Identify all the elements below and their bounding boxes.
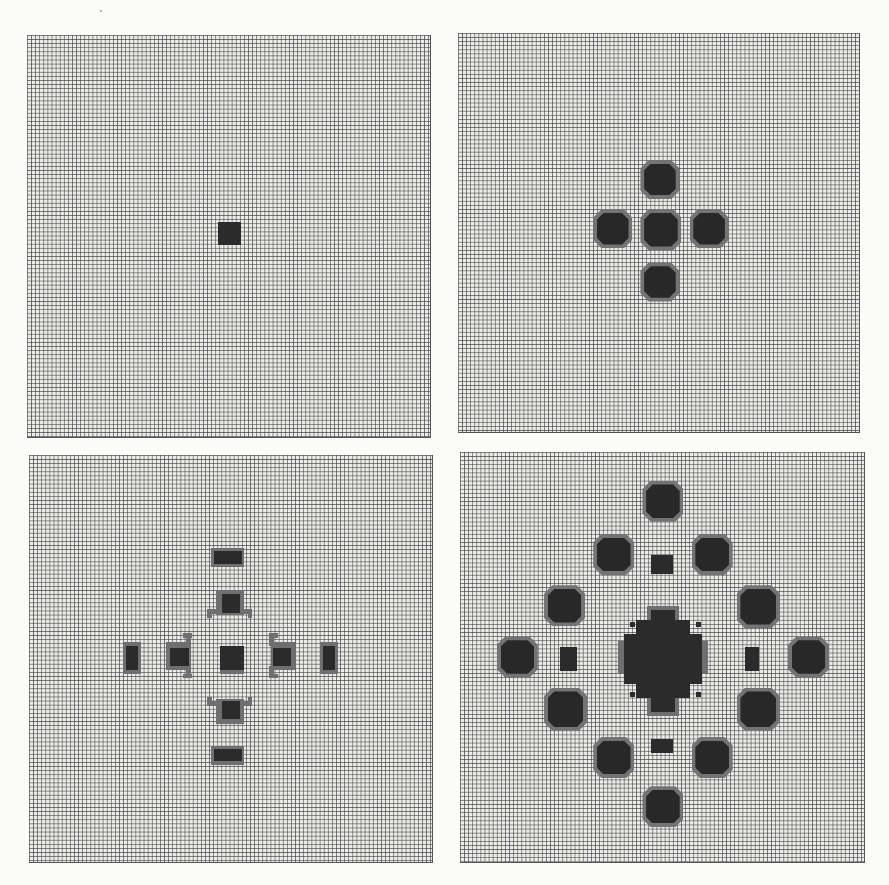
filled-cell-region: [218, 222, 242, 246]
cell-blob: [737, 688, 780, 731]
blob-core: [548, 589, 582, 623]
filled-cell-region: [745, 647, 759, 672]
cell-blob: [642, 786, 683, 827]
cell-blob: [544, 585, 585, 626]
cell-blob: [692, 737, 733, 778]
blob-core: [695, 741, 729, 775]
cell-blob: [640, 263, 679, 302]
blob-core: [646, 484, 680, 518]
scan-speck: [100, 10, 102, 12]
cell-blob: [544, 688, 587, 731]
blob-core: [501, 640, 535, 674]
filled-cell-region: [222, 594, 240, 612]
grid-panel-top-left: [27, 35, 431, 438]
filled-cell-region: [651, 739, 674, 753]
blob-core: [740, 691, 776, 727]
partial-cell-region: [269, 666, 274, 678]
cell-blob: [642, 481, 683, 522]
filled-cell-region: [696, 692, 701, 697]
cell-blob: [737, 585, 780, 628]
partial-cell-region: [186, 633, 191, 645]
blob-core: [693, 213, 725, 245]
partial-cell-region: [207, 701, 219, 706]
filled-cell-region: [323, 646, 335, 671]
grid-panel-bottom-left: [29, 455, 433, 863]
cell-blob: [788, 637, 829, 678]
filled-cell-region: [214, 551, 243, 563]
blob-core: [792, 640, 826, 674]
blob-core: [644, 213, 678, 247]
filled-cell-region: [214, 749, 243, 761]
blob-core: [644, 164, 676, 196]
blob-core: [597, 213, 629, 245]
grid-panel-top-right: [458, 33, 860, 433]
partial-cell-region: [240, 609, 252, 614]
filled-cell-region: [220, 646, 245, 671]
cell-blob: [593, 534, 634, 575]
blob-core: [597, 538, 631, 572]
cell-blob: [640, 160, 679, 199]
filled-cell-region: [126, 646, 138, 671]
blob-core: [644, 266, 676, 298]
filled-cell-region: [630, 622, 635, 627]
filled-cell-region: [636, 620, 689, 698]
blob-core: [548, 691, 584, 727]
cell-blob: [497, 637, 538, 678]
blob-core: [597, 741, 631, 775]
cell-blob: [692, 534, 733, 575]
cell-blob: [593, 209, 632, 248]
blob-core: [695, 538, 729, 572]
partial-cell-region: [186, 666, 191, 678]
cell-blob: [640, 209, 681, 250]
filled-cell-region: [273, 648, 291, 666]
cell-blob: [593, 737, 634, 778]
partial-cell-region: [269, 633, 274, 645]
blob-core: [740, 589, 776, 625]
partial-cell-region: [240, 701, 252, 706]
filled-cell-region: [630, 692, 635, 697]
partial-cell-region: [207, 609, 219, 614]
blob-core: [646, 790, 680, 824]
filled-cell-region: [560, 647, 576, 672]
grid-panel-bottom-right: [460, 452, 865, 863]
filled-cell-region: [222, 701, 240, 719]
filled-cell-region: [651, 555, 674, 573]
filled-cell-region: [170, 648, 188, 666]
cell-blob: [690, 209, 729, 248]
filled-cell-region: [696, 622, 701, 627]
